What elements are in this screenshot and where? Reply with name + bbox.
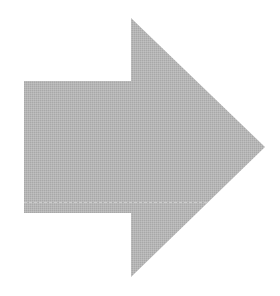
arrow-shape xyxy=(24,18,265,277)
canvas xyxy=(0,0,280,296)
right-arrow-icon xyxy=(0,0,280,296)
